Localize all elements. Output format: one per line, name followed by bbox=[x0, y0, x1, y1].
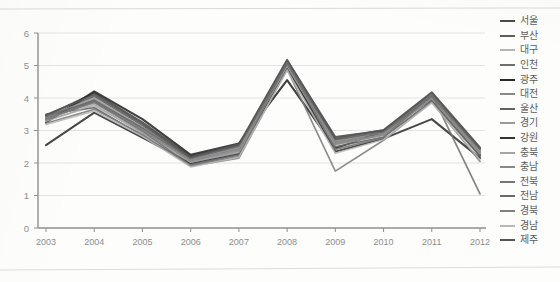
legend-color-swatch bbox=[500, 166, 515, 168]
legend-color-swatch bbox=[500, 49, 515, 51]
legend-color-swatch bbox=[500, 225, 515, 227]
legend-item-label: 제주 bbox=[520, 235, 538, 245]
legend-item-label: 대전 bbox=[520, 89, 538, 99]
legend-item[interactable]: 전북 bbox=[500, 175, 560, 190]
x-tick-label: 2005 bbox=[132, 237, 152, 247]
legend-color-swatch bbox=[500, 93, 515, 95]
legend-item[interactable]: 충북 bbox=[500, 145, 560, 160]
y-tick-label: 6 bbox=[24, 28, 29, 39]
x-tick-label: 2009 bbox=[325, 237, 345, 247]
legend-item[interactable]: 인천 bbox=[500, 58, 560, 73]
x-tick-label: 2011 bbox=[422, 237, 441, 247]
y-tick-label: 5 bbox=[24, 60, 29, 71]
legend-item[interactable]: 부산 bbox=[500, 29, 560, 44]
legend-color-swatch bbox=[500, 35, 515, 37]
y-tick-label: 4 bbox=[24, 93, 29, 104]
legend-item-label: 강원 bbox=[520, 133, 538, 143]
legend-color-swatch bbox=[500, 108, 515, 110]
y-tick-label: 1 bbox=[24, 190, 29, 201]
legend-item-label: 인천 bbox=[520, 60, 538, 70]
legend-color-swatch bbox=[500, 64, 515, 66]
chart-legend: 서울부산대구인천광주대전울산경기강원충북충남전북전남경북경남제주 bbox=[500, 14, 560, 248]
legend-item[interactable]: 대전 bbox=[500, 87, 560, 102]
x-tick-label: 2012 bbox=[470, 237, 490, 247]
x-tick-label: 2004 bbox=[84, 237, 104, 247]
legend-item-label: 충남 bbox=[520, 162, 538, 172]
legend-color-swatch bbox=[500, 195, 515, 197]
legend-item-label: 전북 bbox=[520, 177, 538, 187]
legend-item-label: 경남 bbox=[520, 221, 538, 231]
line-chart: 0123456 20032004200520062007200820092010… bbox=[0, 0, 497, 260]
legend-item-label: 경북 bbox=[520, 206, 538, 216]
legend-item[interactable]: 제주 bbox=[500, 233, 560, 248]
legend-item[interactable]: 경기 bbox=[500, 116, 560, 131]
legend-item[interactable]: 전남 bbox=[500, 189, 560, 204]
legend-item-label: 경기 bbox=[520, 118, 538, 128]
legend-item-label: 울산 bbox=[520, 104, 538, 114]
legend-item-label: 대구 bbox=[520, 45, 538, 55]
legend-item[interactable]: 울산 bbox=[500, 102, 560, 117]
legend-color-swatch bbox=[500, 239, 515, 241]
legend-item[interactable]: 서울 bbox=[500, 14, 560, 29]
legend-item[interactable]: 충남 bbox=[500, 160, 560, 175]
series-line bbox=[46, 62, 480, 194]
legend-color-swatch bbox=[500, 122, 515, 124]
legend-item-label: 광주 bbox=[520, 75, 538, 85]
legend-item[interactable]: 경남 bbox=[500, 218, 560, 233]
y-tick-label: 3 bbox=[24, 125, 29, 136]
legend-color-swatch bbox=[500, 181, 515, 183]
x-axis-labels: 2003200420052006200720082009201020112012 bbox=[36, 237, 490, 247]
legend-color-swatch bbox=[500, 137, 515, 139]
y-tick-label: 2 bbox=[24, 158, 29, 169]
legend-item-label: 서울 bbox=[520, 16, 538, 26]
chart-svg: 0123456 20032004200520062007200820092010… bbox=[0, 0, 497, 260]
legend-item[interactable]: 경북 bbox=[500, 204, 560, 219]
legend-item-label: 충북 bbox=[520, 148, 538, 158]
legend-color-swatch bbox=[500, 210, 515, 212]
legend-item-label: 전남 bbox=[520, 191, 538, 201]
x-tick-label: 2007 bbox=[229, 237, 249, 247]
data-series-group bbox=[46, 60, 480, 194]
legend-item[interactable]: 강원 bbox=[500, 131, 560, 146]
legend-color-swatch bbox=[500, 20, 515, 22]
x-tick-label: 2003 bbox=[36, 237, 56, 247]
legend-item-label: 부산 bbox=[520, 31, 538, 41]
x-tick-label: 2008 bbox=[277, 237, 297, 247]
legend-item[interactable]: 광주 bbox=[500, 72, 560, 87]
legend-color-swatch bbox=[500, 152, 515, 154]
y-axis-labels: 0123456 bbox=[24, 28, 29, 234]
x-tick-label: 2010 bbox=[374, 237, 394, 247]
series-line bbox=[46, 69, 480, 165]
y-tick-label: 0 bbox=[24, 223, 29, 234]
legend-item[interactable]: 대구 bbox=[500, 43, 560, 58]
legend-color-swatch bbox=[500, 79, 515, 81]
x-tick-label: 2006 bbox=[181, 237, 201, 247]
